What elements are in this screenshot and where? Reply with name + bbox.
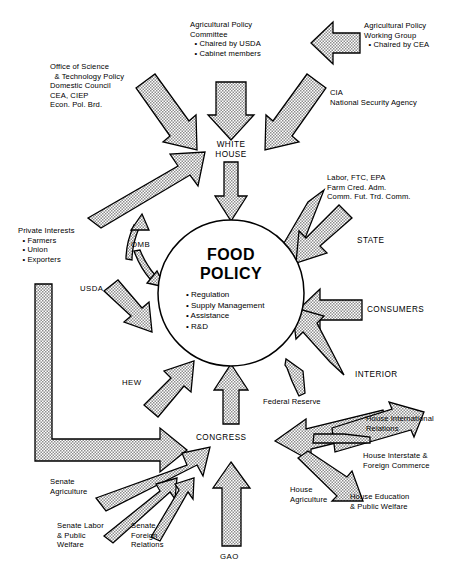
arrow-cia-to-white-house — [265, 74, 326, 150]
label-house-education-public-welfare: House Education & Public Welfare — [350, 492, 409, 511]
arrow-hew-to-food-policy — [144, 361, 194, 417]
label-labor-ftc-epa: Labor, FTC, EPA Farm Cred. Adm. Comm. Fu… — [327, 173, 411, 202]
arrow-committee-to-white-house — [208, 82, 254, 140]
diagram-canvas: Agricultural Policy Committee • Chaired … — [0, 0, 462, 581]
food-policy-title-line2: POLICY — [181, 265, 281, 283]
label-house-interstate-foreign-commerce: House Interstate & Foreign Commerce — [363, 451, 430, 470]
label-consumers: CONSUMERS — [367, 305, 424, 315]
label-senate-labor-public-welfare: Senate Labor & Public Welfare — [57, 521, 104, 550]
food-policy-functions: • Regulation • Supply Management • Assis… — [186, 290, 264, 332]
label-state: STATE — [357, 236, 384, 246]
arrow-congress-to-food-policy — [214, 364, 248, 424]
label-house-international-relations: House International Relations — [366, 414, 434, 433]
label-omb: OMB — [131, 240, 150, 250]
arrow-usda-to-food-policy — [104, 280, 152, 332]
label-senate-foreign-relations: Senate Foreign Relations — [131, 521, 164, 550]
label-cia-nsa: CIA National Security Agency — [330, 88, 417, 107]
arrow-white-house-to-food-policy — [215, 162, 247, 221]
label-senate-agriculture: Senate Agriculture — [50, 477, 87, 496]
label-agricultural-policy-committee: Agricultural Policy Committee • Chaired … — [190, 20, 261, 58]
label-office-of-science: Office of Science & Technology Policy Do… — [50, 62, 124, 110]
arrow-working-group-to-committee — [311, 22, 360, 64]
label-federal-reserve: Federal Reserve — [263, 397, 321, 407]
arrow-omb-down — [134, 250, 155, 279]
label-private-interests: Private Interests • Farmers • Union • Ex… — [18, 226, 75, 264]
arrow-private-interests-to-white-house — [88, 152, 205, 228]
label-interior: INTERIOR — [355, 370, 398, 380]
arrow-omb-up-head — [131, 214, 149, 230]
label-gao: GAO — [220, 552, 239, 562]
label-house-agriculture: House Agriculture — [290, 485, 327, 504]
label-agricultural-policy-working-group: Agricultural Policy Working Group • Chai… — [364, 21, 429, 50]
label-hew: HEW — [122, 378, 142, 388]
label-white-house: WHITE HOUSE — [206, 140, 256, 159]
arrow-science-to-white-house — [136, 74, 197, 150]
arrow-federal-reserve-to-food-policy — [285, 359, 305, 396]
label-congress: CONGRESS — [196, 433, 246, 443]
food-policy-title-line1: FOOD — [181, 246, 281, 264]
arrow-gao-to-congress — [213, 462, 250, 546]
label-usda: USDA — [80, 284, 103, 294]
